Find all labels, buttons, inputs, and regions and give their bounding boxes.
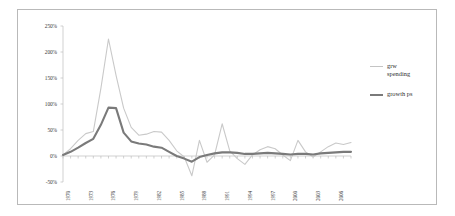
legend-line-swatch-icon	[370, 94, 383, 96]
x-tick-label: 1973	[88, 191, 94, 201]
y-tick-label: 50%	[27, 127, 57, 133]
y-tick-label: -50%	[27, 179, 57, 185]
x-tick-label: 1982	[156, 191, 162, 201]
x-tick-label: 2006	[338, 191, 344, 201]
legend-label: grw spending	[387, 62, 436, 77]
series-line-growth-ps	[63, 108, 351, 162]
legend-line-swatch-icon	[370, 66, 383, 67]
chart-legend: grw spendinggrowth ps	[370, 62, 436, 115]
data-series-group	[63, 39, 351, 176]
x-tick-label: 1985	[179, 191, 185, 201]
y-tick-label: 150%	[27, 75, 57, 81]
legend-label: growth ps	[387, 90, 436, 98]
x-tick-label: 1991	[224, 191, 230, 201]
x-tick-label: 1979	[133, 191, 139, 201]
x-tick-label: 1994	[247, 191, 253, 201]
y-tick-label: 100%	[27, 101, 57, 107]
legend-item[interactable]: growth ps	[370, 90, 436, 102]
y-tick-label: 200%	[27, 49, 57, 55]
x-tick-label: 1976	[110, 191, 116, 201]
x-tick-label: 1997	[270, 191, 276, 201]
y-tick-label: 250%	[27, 23, 57, 29]
x-tick-label: 2000	[292, 191, 298, 201]
chart-figure: 250%200%150%100%50%0%-50% 19701973197619…	[17, 9, 437, 205]
x-tick-label: 1970	[65, 191, 71, 201]
x-tick-label: 1988	[201, 191, 207, 201]
y-tick-label: 0%	[27, 153, 57, 159]
x-tick-label: 2003	[315, 191, 321, 201]
legend-item[interactable]: grw spending	[370, 62, 436, 77]
